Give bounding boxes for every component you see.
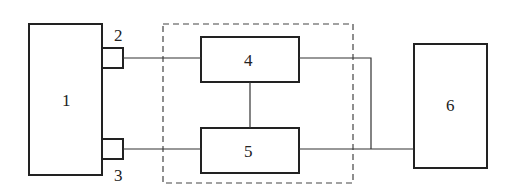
block-4-label: 4 [244, 51, 253, 70]
block-4: 4 [201, 37, 299, 82]
connector-2-label: 2 [114, 26, 123, 45]
line-4-to-6 [299, 58, 371, 149]
block-1-label: 1 [62, 91, 71, 110]
connector-3-label: 3 [114, 166, 123, 185]
dashed-group-box [163, 24, 353, 183]
block-6-label: 6 [446, 96, 455, 115]
block-6: 6 [414, 44, 487, 168]
block-5-label: 5 [244, 142, 253, 161]
block-1: 1 [29, 24, 102, 175]
block-5: 5 [201, 128, 299, 173]
block-diagram: 1 2 3 4 5 6 [0, 0, 512, 193]
connector-2: 2 [102, 26, 123, 68]
connector-3: 3 [102, 139, 123, 185]
